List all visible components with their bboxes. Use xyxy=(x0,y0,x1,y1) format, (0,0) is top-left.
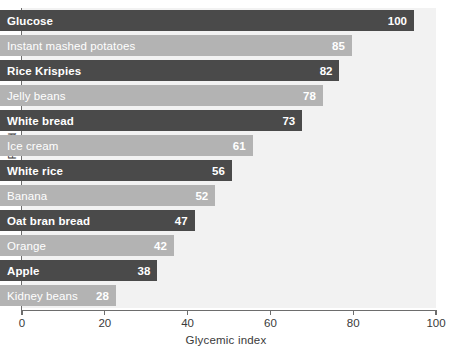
bar-row: Rice Krispies82 xyxy=(0,60,452,82)
x-tick-label: 100 xyxy=(416,317,452,329)
bar-row: White rice56 xyxy=(0,160,452,182)
x-tick-mark xyxy=(435,310,436,315)
glycemic-index-bar-chart: Food Glucose100Instant mashed potatoes85… xyxy=(0,0,452,350)
x-tick-label: 0 xyxy=(2,317,42,329)
bar-value-label: 42 xyxy=(154,240,174,252)
bar-row: Glucose100 xyxy=(0,10,452,32)
bar-category-label: Orange xyxy=(0,240,46,252)
bar-category-label: Banana xyxy=(0,190,47,202)
bar-value-label: 78 xyxy=(303,90,323,102)
bar[interactable]: Rice Krispies82 xyxy=(0,60,339,82)
bar[interactable]: Glucose100 xyxy=(0,10,414,32)
bar-category-label: Ice cream xyxy=(0,140,58,152)
bar[interactable]: Ice cream61 xyxy=(0,135,253,157)
bar-row: Oat bran bread47 xyxy=(0,210,452,232)
bar-row: Banana52 xyxy=(0,185,452,207)
bar-category-label: Rice Krispies xyxy=(0,65,81,77)
x-tick-mark xyxy=(187,310,188,315)
bar-row: Jelly beans78 xyxy=(0,85,452,107)
bar[interactable]: White bread73 xyxy=(0,110,302,132)
bar[interactable]: Instant mashed potatoes85 xyxy=(0,35,352,57)
bar-category-label: Kidney beans xyxy=(0,290,78,302)
x-tick-mark xyxy=(270,310,271,315)
bar-value-label: 85 xyxy=(332,40,352,52)
bar-category-label: White rice xyxy=(0,165,63,177)
x-axis-title: Glycemic index xyxy=(0,334,452,346)
bar[interactable]: Kidney beans28 xyxy=(0,285,116,307)
bar-row: Apple38 xyxy=(0,260,452,282)
bar[interactable]: Orange42 xyxy=(0,235,174,257)
bar-category-label: Apple xyxy=(0,265,39,277)
bar-category-label: Instant mashed potatoes xyxy=(0,40,135,52)
bar-category-label: Glucose xyxy=(0,15,53,27)
x-axis-line xyxy=(21,310,437,311)
bar-category-label: White bread xyxy=(0,115,74,127)
x-tick-label: 80 xyxy=(333,317,373,329)
bar-value-label: 52 xyxy=(195,190,215,202)
bar[interactable]: Banana52 xyxy=(0,185,215,207)
bar-value-label: 38 xyxy=(138,265,158,277)
x-tick-mark xyxy=(104,310,105,315)
bar[interactable]: Jelly beans78 xyxy=(0,85,323,107)
bar[interactable]: Oat bran bread47 xyxy=(0,210,195,232)
bar-category-label: Oat bran bread xyxy=(0,215,90,227)
x-tick-label: 60 xyxy=(250,317,290,329)
bar[interactable]: White rice56 xyxy=(0,160,232,182)
x-tick-mark xyxy=(21,310,22,315)
bar-category-label: Jelly beans xyxy=(0,90,66,102)
bar-value-label: 61 xyxy=(233,140,253,152)
bar-value-label: 82 xyxy=(320,65,340,77)
bar-value-label: 28 xyxy=(96,290,116,302)
bar-row: Instant mashed potatoes85 xyxy=(0,35,452,57)
bar-value-label: 100 xyxy=(388,15,414,27)
bar-value-label: 47 xyxy=(175,215,195,227)
bar[interactable]: Apple38 xyxy=(0,260,157,282)
x-tick-mark xyxy=(353,310,354,315)
x-tick-label: 40 xyxy=(168,317,208,329)
bar-value-label: 73 xyxy=(282,115,302,127)
bar-row: Orange42 xyxy=(0,235,452,257)
bar-row: White bread73 xyxy=(0,110,452,132)
x-tick-label: 20 xyxy=(85,317,125,329)
bar-row: Kidney beans28 xyxy=(0,285,452,307)
bar-row: Ice cream61 xyxy=(0,135,452,157)
bar-value-label: 56 xyxy=(212,165,232,177)
